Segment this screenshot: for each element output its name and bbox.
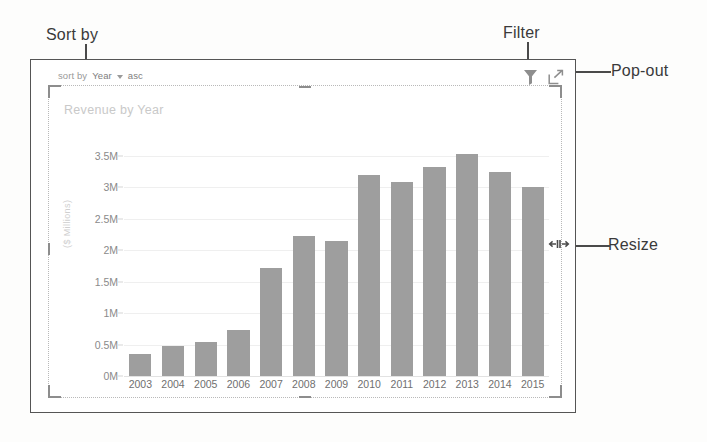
bar-2014[interactable] xyxy=(489,172,511,376)
x-axis-tick-label: 2013 xyxy=(456,378,479,390)
sort-by-field[interactable]: Year xyxy=(92,70,112,81)
y-axis-tick-label: 0.5M xyxy=(95,339,118,351)
bar-2010[interactable] xyxy=(358,175,380,376)
resize-handle-bottom-right[interactable] xyxy=(549,385,562,398)
y-axis-tick-mark xyxy=(118,218,123,219)
x-axis-tick-label: 2011 xyxy=(391,378,414,390)
x-axis-tick-label: 2015 xyxy=(521,378,544,390)
bar-2005[interactable] xyxy=(195,342,217,376)
y-axis-tick-label: 1.5M xyxy=(95,276,118,288)
bar-2004[interactable] xyxy=(162,346,184,376)
bar-2015[interactable] xyxy=(522,187,544,376)
y-axis-tick-mark xyxy=(118,281,123,282)
bar-2006[interactable] xyxy=(227,330,249,376)
y-axis-tick-label: 1M xyxy=(103,307,118,319)
bar-series[interactable] xyxy=(124,140,549,376)
x-axis-tick-label: 2008 xyxy=(292,378,315,390)
visual-header-bar: sort by Year asc xyxy=(56,70,556,86)
x-axis-tick-label: 2014 xyxy=(488,378,511,390)
resize-handle-top-left[interactable] xyxy=(48,85,61,98)
y-axis-tick-mark xyxy=(118,250,123,251)
bar-2013[interactable] xyxy=(456,154,478,376)
y-axis-tick-label: 3M xyxy=(103,181,118,193)
bar-2003[interactable] xyxy=(129,354,151,376)
y-axis-tick-mark xyxy=(118,187,123,188)
y-axis-tick-label: 3.5M xyxy=(95,150,118,162)
funnel-icon[interactable] xyxy=(522,68,539,86)
annotation-label-filter: Filter xyxy=(503,24,540,42)
annotation-label-resize: Resize xyxy=(608,236,658,254)
x-axis-tick-label: 2005 xyxy=(194,378,217,390)
pop-out-arrow-icon[interactable] xyxy=(548,69,564,85)
resize-handle-top-center[interactable] xyxy=(299,86,311,88)
sort-by-label: sort by xyxy=(58,70,87,81)
gridline xyxy=(124,376,549,377)
chevron-down-icon[interactable] xyxy=(117,75,123,79)
bar-2007[interactable] xyxy=(260,268,282,376)
y-axis-tick-label: 0M xyxy=(103,370,118,382)
x-axis-tick-label: 2009 xyxy=(325,378,348,390)
chart-title: Revenue by Year xyxy=(64,103,164,117)
x-axis-tick-label: 2007 xyxy=(259,378,282,390)
x-axis-tick-label: 2003 xyxy=(129,378,152,390)
y-axis-tick-mark xyxy=(118,344,123,345)
bar-2012[interactable] xyxy=(423,167,445,376)
y-axis-tick-label: 2M xyxy=(103,244,118,256)
sort-by-control[interactable]: sort by Year asc xyxy=(58,70,143,81)
y-axis-tick-mark xyxy=(118,376,123,377)
x-axis-tick-label: 2012 xyxy=(423,378,446,390)
resize-handle-bottom-center[interactable] xyxy=(299,396,311,398)
sort-direction[interactable]: asc xyxy=(128,70,143,81)
resize-handle-left-center[interactable] xyxy=(48,243,50,255)
y-axis-tick-label: 2.5M xyxy=(95,213,118,225)
bar-2008[interactable] xyxy=(293,236,315,376)
y-axis-tick-mark xyxy=(118,155,123,156)
y-axis-tick-mark xyxy=(118,313,123,314)
x-axis-tick-label: 2010 xyxy=(358,378,381,390)
x-axis-tick-label: 2004 xyxy=(161,378,184,390)
resize-handle-top-right[interactable] xyxy=(549,85,562,98)
annotation-label-sort-by: Sort by xyxy=(46,26,98,44)
annotation-label-pop-out: Pop-out xyxy=(611,62,668,80)
resize-handle-bottom-left[interactable] xyxy=(48,385,61,398)
x-axis-tick-label: 2006 xyxy=(227,378,250,390)
bar-2009[interactable] xyxy=(325,241,347,376)
resize-cursor-arrow-icon[interactable] xyxy=(548,236,572,252)
y-axis: 0M0.5M1M1.5M2M2.5M3M3.5M xyxy=(70,140,122,380)
x-axis: 2003200420052006200720082009201020112012… xyxy=(124,378,549,394)
bar-2011[interactable] xyxy=(391,182,413,376)
